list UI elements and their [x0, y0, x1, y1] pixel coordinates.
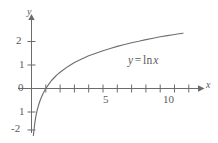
plot-canvas — [0, 0, 218, 143]
curve-equation-label: y=lnx — [128, 55, 159, 67]
x-tick-label-5: 5 — [103, 94, 109, 105]
y-tick-label-2: 2 — [16, 35, 22, 46]
equation-function-name: ln — [143, 54, 153, 66]
y-tick-label-neg-2: -2 — [11, 123, 20, 134]
y-axis-label: y — [27, 7, 31, 17]
logarithm-graph-figure: 2 1 0 1 -2 5 10 y x y=lnx — [0, 0, 218, 143]
y-tick-label-neg-1: 1 — [19, 106, 25, 117]
x-axis-arrowhead — [198, 85, 205, 91]
y-tick-label-1: 1 — [19, 59, 25, 70]
x-axis-label: x — [206, 80, 210, 90]
equation-argument: x — [153, 54, 158, 66]
x-tick-label-10: 10 — [163, 94, 174, 105]
ln-curve — [33, 33, 183, 135]
equation-equals-sign: = — [133, 54, 143, 66]
y-tick-label-0: 0 — [18, 82, 24, 93]
